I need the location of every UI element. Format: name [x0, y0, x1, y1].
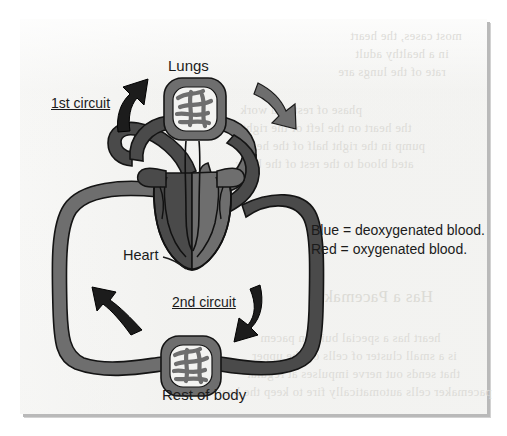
legend-line-oxygenated: Red = oxygenated blood. — [311, 240, 485, 259]
label-heart: Heart — [123, 247, 158, 263]
circulation-diagram-svg: .vred { fill:#6e6e6e; stroke:#141414; st… — [20, 19, 487, 414]
circulation-diagram: .vred { fill:#6e6e6e; stroke:#141414; st… — [20, 19, 487, 414]
label-second-circuit: 2nd circuit — [172, 294, 236, 310]
label-lungs: Lungs — [168, 57, 209, 74]
legend: Blue = deoxygenated blood. Red = oxygena… — [311, 221, 485, 260]
arrow-systemic-out — [234, 285, 262, 342]
label-first-circuit: 1st circuit — [51, 95, 110, 111]
arrow-systemic-return — [92, 287, 142, 335]
lungs-capillary-bed — [164, 78, 226, 140]
legend-line-deoxygenated: Blue = deoxygenated blood. — [311, 221, 485, 240]
systemic-artery-vessel — [52, 181, 162, 375]
systemic-vein-vessel — [220, 195, 324, 375]
scanned-page: most cases, the heart in a healthy adult… — [0, 0, 507, 436]
arrow-pulmonary-return — [254, 83, 296, 129]
paper-sheet: most cases, the heart in a healthy adult… — [20, 19, 487, 414]
label-rest-of-body: Rest of body — [162, 386, 246, 403]
